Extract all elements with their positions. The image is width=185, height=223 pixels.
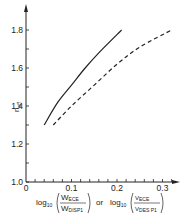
dashed-curve [53,30,171,125]
left-paren-icon [131,193,133,213]
svg-text:VDES P1: VDES P1 [135,206,157,213]
x-tick-label: 0.3 [157,183,169,193]
y-tick-label: 1.2 [11,139,23,149]
svg-text:WDISP1: WDISP1 [61,204,83,213]
chart: 1.01.21.41.61.8 00.10.20.3 neff log10 WE… [0,0,185,223]
x-tick-label: 0.1 [66,183,78,193]
y-axis-arrow-icon [24,4,28,12]
svg-text:log10: log10 [36,198,52,208]
left-paren-icon [57,193,59,213]
svg-text:log10: log10 [110,198,126,208]
y-tick-label: 1.0 [11,177,23,187]
y-tick-label: 1.6 [11,63,23,73]
x-tick-label: 0 [24,183,29,193]
x-axis-arrow-icon [172,180,180,184]
x-tick-label: 0.2 [111,183,123,193]
right-paren-icon [161,193,163,213]
x-ticks: 00.10.20.3 [24,179,172,193]
svg-text:or: or [96,198,103,207]
svg-text:VECE: VECE [135,195,150,202]
right-paren-icon [88,193,90,213]
y-tick-label: 1.8 [11,25,23,35]
svg-text:WECE: WECE [61,193,80,202]
solid-curve [44,30,121,125]
x-axis-label: log10 WECE WDISP1 or log10 VECE VDES P1 [36,193,163,213]
